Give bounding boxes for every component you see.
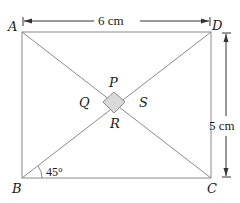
- point-label-q: Q: [79, 95, 90, 110]
- shaded-square-pqrs: [103, 92, 125, 113]
- vertex-label-a: A: [7, 19, 17, 34]
- height-label: 5 cm: [209, 118, 235, 133]
- point-label-r: R: [109, 116, 120, 131]
- vertex-label-c: C: [207, 181, 217, 196]
- width-label: 6 cm: [98, 13, 124, 28]
- point-label-s: S: [139, 95, 148, 110]
- arrow-right-icon: [201, 19, 209, 24]
- geometry-diagram: A D B C P Q R S 6 cm 5 cm 45°: [0, 0, 240, 203]
- arrow-up-icon: [224, 34, 229, 42]
- angle-label: 45°: [46, 165, 63, 179]
- vertex-label-b: B: [11, 181, 22, 196]
- arrow-left-icon: [24, 19, 32, 24]
- angle-arc-b: [38, 166, 42, 178]
- vertex-label-d: D: [211, 18, 223, 33]
- point-label-p: P: [108, 75, 118, 90]
- arrow-down-icon: [224, 168, 229, 176]
